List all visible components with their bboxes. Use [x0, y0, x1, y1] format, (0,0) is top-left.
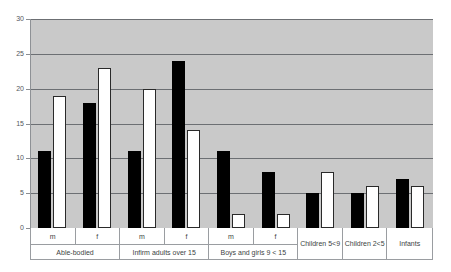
bar-pair — [75, 19, 120, 228]
bar-white — [411, 186, 424, 228]
sub-label-m: m — [120, 228, 165, 244]
bar-black — [351, 193, 364, 228]
y-tick-label: 25 — [16, 50, 24, 57]
bar-black — [38, 151, 51, 228]
category-group-label: Able-bodied — [31, 244, 119, 259]
bar-white — [53, 96, 66, 228]
category-group-cell: Infants — [387, 228, 432, 259]
sub-label-f: f — [76, 228, 120, 244]
y-tick-label: 5 — [20, 189, 24, 196]
sub-label-row: mf — [120, 228, 208, 244]
bar-pair — [164, 19, 209, 228]
bar-black — [396, 179, 409, 228]
category-group-label: Boys and girls 9 < 15 — [209, 244, 297, 259]
bar-group — [298, 19, 343, 228]
bar-black — [262, 172, 275, 228]
category-label-table: mfAble-bodiedmfInfirm adults over 15mfBo… — [30, 228, 433, 260]
bar-white — [277, 214, 290, 228]
bar-white — [143, 89, 156, 228]
category-group-label: Children 2<5 — [343, 228, 387, 259]
y-tick-label: 30 — [16, 15, 24, 22]
bar-white — [366, 186, 379, 228]
bar-chart: 051015202530 mfAble-bodiedmfInfirm adult… — [0, 0, 451, 272]
category-group-cell: mfAble-bodied — [31, 228, 120, 259]
category-group-cell: mfInfirm adults over 15 — [120, 228, 209, 259]
y-tick-label: 10 — [16, 154, 24, 161]
bar-group — [343, 19, 388, 228]
category-group-cell: Children 2<5 — [343, 228, 388, 259]
bar-white — [232, 214, 245, 228]
y-tick-label: 15 — [16, 120, 24, 127]
bar-pair — [253, 19, 298, 228]
category-group-label: Infants — [387, 228, 432, 259]
bar-black — [306, 193, 319, 228]
sub-label-row: mf — [209, 228, 297, 244]
bar-pair — [387, 19, 432, 228]
bar-group — [119, 19, 208, 228]
category-group-label: Children 5<9 — [298, 228, 342, 259]
y-tick-label: 0 — [20, 224, 24, 231]
bar-pair — [119, 19, 164, 228]
bar-black — [217, 151, 230, 228]
sub-label-m: m — [31, 228, 76, 244]
bar-pair — [298, 19, 343, 228]
bar-group — [387, 19, 432, 228]
category-group-label: Infirm adults over 15 — [120, 244, 208, 259]
sub-label-m: m — [209, 228, 254, 244]
bar-black — [83, 103, 96, 228]
bar-white — [321, 172, 334, 228]
sub-label-f: f — [165, 228, 209, 244]
bar-pair — [343, 19, 388, 228]
bar-black — [172, 61, 185, 228]
bar-pair — [209, 19, 254, 228]
y-axis: 051015202530 — [0, 0, 30, 272]
bar-group — [209, 19, 298, 228]
sub-label-f: f — [254, 228, 298, 244]
bar-group — [30, 19, 119, 228]
y-tick-label: 20 — [16, 85, 24, 92]
bar-white — [98, 68, 111, 228]
bar-white — [187, 130, 200, 228]
sub-label-row: mf — [31, 228, 119, 244]
bars-layer — [30, 19, 432, 228]
category-group-cell: Children 5<9 — [298, 228, 343, 259]
bar-black — [128, 151, 141, 228]
bar-pair — [30, 19, 75, 228]
category-group-cell: mfBoys and girls 9 < 15 — [209, 228, 298, 259]
